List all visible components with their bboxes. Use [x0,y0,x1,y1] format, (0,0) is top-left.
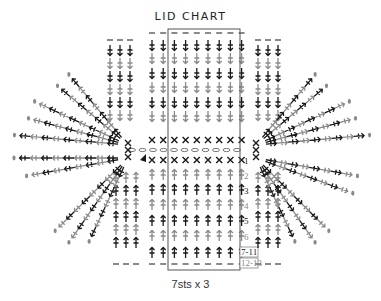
double-crochet-icon [266,97,271,108]
turning-chain-icon [205,32,211,34]
chain-icon [67,72,70,77]
turning-chain-icon [183,32,189,34]
double-crochet-icon [266,110,271,121]
double-crochet-icon [118,97,123,108]
double-crochet-icon [206,200,211,211]
double-crochet-icon [32,171,43,178]
chain-icon [314,72,317,77]
turning-chain-icon [275,263,281,265]
double-crochet-icon [42,169,53,176]
chain-icon [12,156,15,161]
double-crochet-icon [217,111,222,122]
double-crochet-icon [172,200,177,211]
double-crochet-icon [194,82,199,93]
double-crochet-icon [206,82,211,93]
double-crochet-icon [272,196,281,208]
double-crochet-icon [217,97,222,108]
double-crochet-icon [108,71,113,82]
single-crochet-icon [227,137,233,143]
double-crochet-icon [256,58,261,69]
chain-icon [88,239,91,244]
double-crochet-icon [161,82,166,93]
double-crochet-icon [161,185,166,196]
double-crochet-icon [194,248,199,259]
double-crochet-icon [256,97,261,108]
double-crochet-icon [329,120,340,128]
double-crochet-icon [183,200,188,211]
double-crochet-icon [183,185,188,196]
double-crochet-icon [194,53,199,64]
double-crochet-icon [134,238,139,249]
single-crochet-icon [171,137,177,143]
double-crochet-icon [276,159,287,166]
double-crochet-icon [150,40,155,51]
turning-chain-icon [255,263,261,265]
double-crochet-icon [128,110,133,121]
double-crochet-icon [266,225,271,236]
double-crochet-icon [172,111,177,122]
double-crochet-icon [150,68,155,79]
double-crochet-icon [161,170,166,181]
double-crochet-icon [228,82,233,93]
double-crochet-icon [172,97,177,108]
single-crochet-icon [149,157,155,163]
double-crochet-icon [276,212,281,223]
turning-chain-icon [160,32,166,34]
turning-chain-icon [194,263,200,265]
double-crochet-icon [54,123,65,131]
double-crochet-icon [206,170,211,181]
chain-icon [351,191,354,196]
turning-chain-icon [265,263,271,265]
double-crochet-icon [128,71,133,82]
chain-icon [192,148,199,151]
double-crochet-icon [228,216,233,227]
double-crochet-icon [217,53,222,64]
double-crochet-icon [342,134,353,140]
single-crochet-icon [194,137,200,143]
double-crochet-icon [266,45,271,56]
double-crochet-icon [183,248,188,259]
double-crochet-icon [124,186,129,197]
double-crochet-icon [134,225,139,236]
double-crochet-icon [161,97,166,108]
single-crochet-icon [125,147,131,153]
double-crochet-icon [256,173,261,184]
single-crochet-icon [149,137,155,143]
double-crochet-icon [298,163,309,170]
turning-chain-icon [255,39,261,41]
double-crochet-icon [228,53,233,64]
double-crochet-icon [318,123,329,131]
double-crochet-icon [114,212,119,223]
double-crochet-icon [194,40,199,51]
turning-chain-icon [227,32,233,34]
chain-icon [181,148,188,151]
double-crochet-icon [53,167,64,174]
double-crochet-icon [183,53,188,64]
double-crochet-icon [275,163,287,171]
double-crochet-icon [256,71,261,82]
row-label: 4 [244,201,249,211]
double-crochet-icon [33,117,44,125]
double-crochet-icon [128,84,133,95]
double-crochet-icon [94,216,103,228]
row-label: 7-11 [241,247,257,257]
double-crochet-icon [298,219,308,230]
double-crochet-icon [217,40,222,51]
double-crochet-icon [194,68,199,79]
chain-icon [54,228,57,233]
double-crochet-icon [20,133,31,139]
double-crochet-icon [75,163,86,170]
double-crochet-icon [281,216,290,228]
turning-chain-icon [160,263,166,265]
repeat-box [168,29,240,270]
double-crochet-icon [339,117,350,125]
double-crochet-icon [172,82,177,93]
double-crochet-icon [217,200,222,211]
double-crochet-icon [266,58,271,69]
double-crochet-icon [256,199,261,210]
single-crochet-icon [253,154,259,160]
double-crochet-icon [228,97,233,108]
double-crochet-icon [53,156,64,161]
double-crochet-icon [70,228,80,239]
double-crochet-icon [134,173,139,184]
